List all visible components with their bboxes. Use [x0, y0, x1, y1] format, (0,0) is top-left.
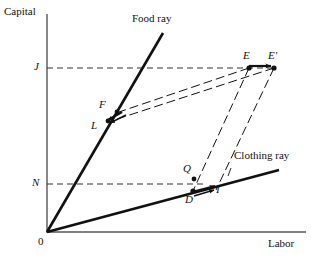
dot-e-prime: [271, 65, 276, 70]
food-ray-line: [47, 33, 163, 232]
x-axis-label: Labor: [268, 238, 294, 249]
y-axis-label: Capital: [4, 6, 36, 17]
decomposition-eprime-to-i: [216, 68, 274, 190]
dot-f: [115, 110, 120, 115]
tick-label-j: J: [34, 61, 39, 72]
point-label-e: E: [243, 50, 250, 61]
point-label-e-prime: E': [268, 50, 277, 61]
point-dots: [106, 65, 277, 193]
food-ray-label: Food ray: [132, 13, 171, 24]
point-label-q: Q: [183, 163, 191, 174]
diagram-canvas: Capital Labor 0 J N Food ray Clothing ra…: [0, 0, 311, 263]
tick-label-n: N: [32, 177, 39, 188]
point-label-d: D: [185, 194, 193, 205]
point-label-l: L: [91, 120, 97, 131]
point-label-i: I: [216, 184, 220, 195]
decomposition-eprime-to-l: [108, 68, 274, 122]
clothing-ray-label: Clothing ray: [234, 150, 289, 161]
clothing-ray-line: [47, 170, 279, 232]
decomposition-e-to-f: [116, 68, 249, 113]
diagram-vector-layer: [0, 0, 311, 263]
decomposition-e-to-d: [193, 68, 249, 191]
point-label-f: F: [99, 99, 106, 110]
dot-e: [246, 65, 251, 70]
origin-label: 0: [38, 236, 44, 247]
axis-lines: [47, 14, 306, 233]
tick-mark-near-i: [228, 168, 231, 176]
dot-l: [106, 119, 111, 124]
dot-q: [192, 177, 197, 182]
